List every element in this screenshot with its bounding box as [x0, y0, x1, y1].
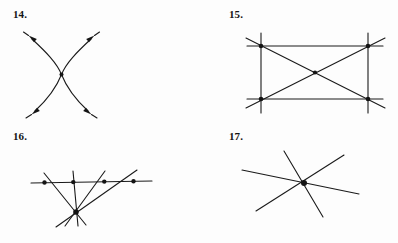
pencil-line-1 — [44, 173, 86, 225]
vertex-dot-top-left — [259, 44, 264, 49]
arrowhead-upper-left — [29, 36, 37, 43]
tail-lower-left — [26, 115, 32, 119]
pencil-line-4 — [56, 170, 137, 227]
transversal-dot-3 — [102, 179, 106, 183]
tail-upper-right — [95, 32, 100, 36]
diagonal-intersection-dot — [313, 70, 317, 74]
figure-15-cell: 15. — [199, 0, 398, 122]
transversal-dot-2 — [71, 180, 75, 184]
figure-16-cell: 16. — [0, 122, 199, 243]
arrowhead-upper-right — [86, 36, 94, 43]
concurrency-point-dot — [73, 209, 79, 215]
transversal-dot-1 — [42, 180, 46, 184]
intersection-dot-center — [60, 73, 64, 77]
tail-upper-left — [24, 32, 29, 36]
vertex-dot-bottom-right — [366, 97, 371, 102]
pencil-line-2 — [73, 171, 78, 226]
figure-15-drawing — [199, 0, 398, 122]
figure-16-drawing — [0, 122, 199, 243]
transversal-dot-4 — [131, 179, 135, 183]
arrowhead-lower-left — [32, 108, 40, 115]
arrowhead-lower-right — [83, 108, 91, 115]
concurrency-point-dot — [301, 180, 307, 186]
figure-14-cell: 14. — [0, 0, 199, 122]
line-b — [242, 170, 359, 194]
tail-lower-right — [92, 115, 98, 119]
vertex-dot-bottom-left — [259, 97, 264, 102]
line-c — [256, 155, 344, 211]
figure-17-drawing — [199, 122, 398, 243]
figure-17-cell: 17. — [199, 122, 398, 243]
figure-14-drawing — [0, 0, 199, 122]
pencil-line-3 — [65, 171, 105, 226]
vertex-dot-top-right — [366, 44, 371, 49]
figure-sheet: 14. 15. — [0, 0, 398, 243]
